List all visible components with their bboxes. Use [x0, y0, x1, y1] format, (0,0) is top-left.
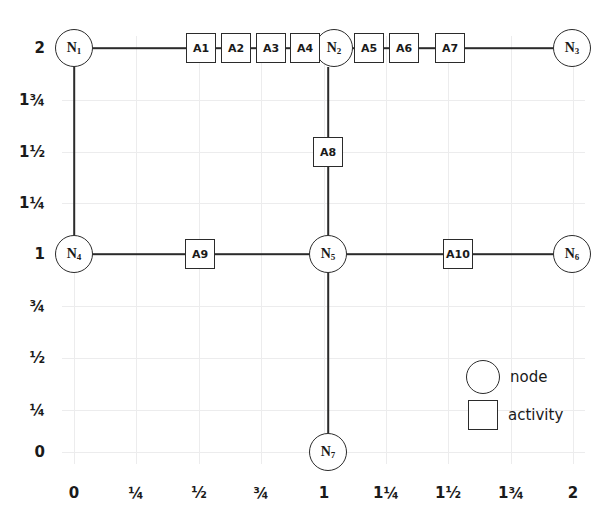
activity-label: A7: [442, 43, 458, 54]
x-axis-tick-label: 2: [568, 486, 578, 501]
activity-label: A5: [361, 43, 377, 54]
edge-n1-n4: [73, 67, 75, 235]
node-n5[interactable]: N5: [309, 235, 347, 273]
node-n1[interactable]: N1: [55, 29, 93, 67]
x-axis-tick-label: 0: [69, 486, 79, 501]
activity-a6[interactable]: A6: [389, 33, 419, 63]
node-label: N3: [565, 41, 580, 55]
x-axis-tick-label: 1¼: [373, 486, 399, 501]
grid-line-horizontal: [62, 100, 585, 101]
activity-label: A3: [263, 43, 279, 54]
legend: node activity: [466, 360, 586, 432]
activity-label: A9: [192, 249, 208, 260]
node-n3[interactable]: N3: [553, 29, 591, 67]
edge-n5-n7: [327, 273, 329, 433]
x-axis-tick-label: ¾: [253, 486, 269, 501]
x-axis-tick-label: ½: [191, 486, 207, 501]
x-axis-tick-label: 1: [319, 486, 329, 501]
activity-a10[interactable]: A10: [443, 239, 473, 269]
node-n4[interactable]: N4: [55, 235, 93, 273]
activity-label: A8: [320, 147, 336, 158]
node-label: N6: [565, 247, 580, 261]
activity-a5[interactable]: A5: [354, 33, 384, 63]
activity-label: A1: [193, 43, 209, 54]
activity-label: A10: [446, 249, 470, 260]
legend-item-activity: activity: [466, 398, 563, 432]
x-axis-tick-label: 1¾: [498, 486, 524, 501]
x-axis-tick-label: ¼: [128, 486, 144, 501]
y-axis-tick-label: 1½: [19, 145, 45, 160]
node-label: N5: [321, 247, 336, 261]
activity-a2[interactable]: A2: [221, 33, 251, 63]
activity-a9[interactable]: A9: [185, 239, 215, 269]
activity-label: A2: [228, 43, 244, 54]
legend-item-node: node: [466, 360, 547, 394]
activity-a4[interactable]: A4: [290, 33, 320, 63]
activity-a3[interactable]: A3: [256, 33, 286, 63]
activity-a1[interactable]: A1: [186, 33, 216, 63]
node-n7[interactable]: N7: [309, 433, 347, 471]
legend-label-activity: activity: [508, 406, 563, 424]
node-label: N1: [67, 41, 82, 55]
grid-line-horizontal: [62, 203, 585, 204]
node-label: N2: [327, 41, 342, 55]
y-axis-tick-label: 2: [35, 41, 45, 56]
grid-line-horizontal: [62, 306, 585, 307]
node-n6[interactable]: N6: [553, 235, 591, 273]
x-axis-tick-label: 1½: [435, 486, 461, 501]
y-axis-tick-label: 1¾: [19, 93, 45, 108]
y-axis-tick-label: 0: [35, 445, 45, 460]
activity-a7[interactable]: A7: [435, 33, 465, 63]
activity-label: A4: [297, 43, 313, 54]
y-axis-tick-label: ¾: [29, 299, 45, 314]
activity-label: A6: [396, 43, 412, 54]
y-axis-tick-label: 1¼: [19, 196, 45, 211]
y-axis-tick-label: ¼: [29, 403, 45, 418]
node-label: N4: [67, 247, 82, 261]
square-icon: [468, 400, 498, 430]
activity-a8[interactable]: A8: [313, 137, 343, 167]
circle-icon: [466, 360, 500, 394]
y-axis-tick-label: 1: [35, 247, 45, 262]
legend-label-node: node: [510, 368, 547, 386]
node-label: N7: [321, 445, 336, 459]
node-n2[interactable]: N2: [315, 29, 353, 67]
diagram-canvas: N1N2N3N4N5N6N7 A1A2A3A4A5A6A7A8A9A10 21¾…: [0, 0, 612, 522]
y-axis-tick-label: ½: [29, 351, 45, 366]
grid-line-horizontal: [62, 358, 585, 359]
